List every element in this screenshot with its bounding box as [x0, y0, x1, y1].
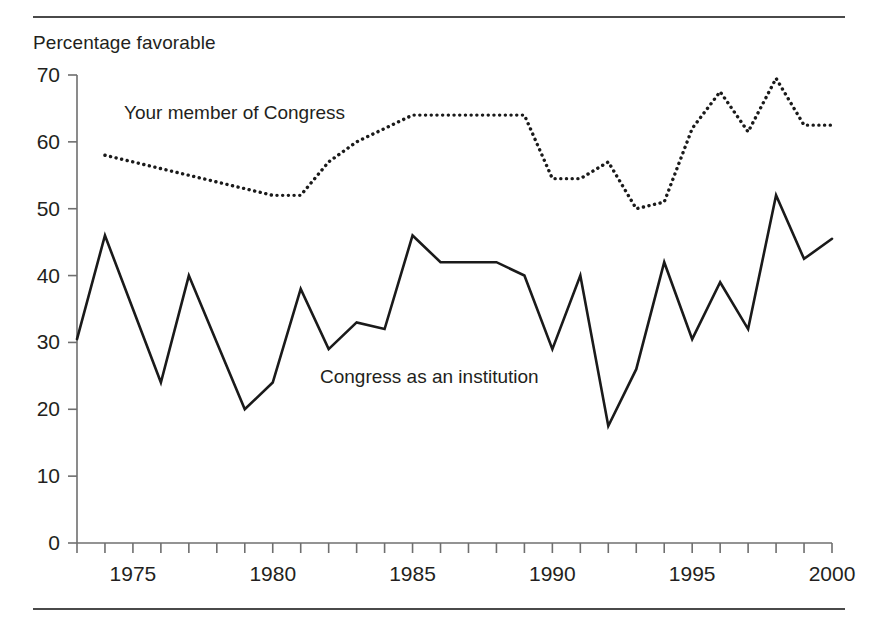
y-axis-ticks [68, 75, 77, 543]
x-axis-tick-label: 1995 [647, 563, 737, 584]
series-label-your-member-of-congress: Your member of Congress [124, 102, 345, 124]
y-axis-tick-label: 70 [20, 64, 60, 85]
series-line-your-member-of-congress [105, 78, 832, 208]
y-axis-tick-label: 30 [20, 331, 60, 352]
series-label-congress-as-an-institution: Congress as an institution [320, 366, 539, 388]
x-axis-ticks [77, 543, 832, 553]
x-axis-tick-label: 1985 [368, 563, 458, 584]
series-line-congress-as-an-institution [77, 195, 832, 426]
axis-lines [77, 75, 832, 543]
y-axis-tick-label: 0 [20, 532, 60, 553]
y-axis-tick-label: 40 [20, 265, 60, 286]
line-chart-plot [0, 0, 878, 629]
x-axis-tick-label: 1980 [228, 563, 318, 584]
x-axis-tick-label: 1990 [507, 563, 597, 584]
x-axis-tick-label: 2000 [787, 563, 877, 584]
x-axis-tick-label: 1975 [88, 563, 178, 584]
y-axis-tick-label: 60 [20, 131, 60, 152]
y-axis-tick-label: 10 [20, 465, 60, 486]
y-axis-tick-label: 50 [20, 198, 60, 219]
y-axis-tick-label: 20 [20, 398, 60, 419]
chart-figure: Percentage favorable 010203040506070 197… [0, 0, 878, 629]
